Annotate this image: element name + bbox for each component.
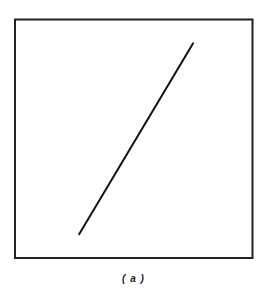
frame-box bbox=[15, 20, 253, 259]
diagram-canvas bbox=[0, 0, 267, 297]
figure-caption: ( a ) bbox=[0, 273, 267, 284]
diagonal-line bbox=[79, 43, 193, 234]
